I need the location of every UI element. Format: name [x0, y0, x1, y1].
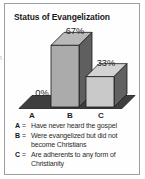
- svg-text:0%: 0%: [35, 88, 48, 98]
- svg-text:B: B: [67, 111, 73, 120]
- svg-text:67%: 67%: [66, 26, 85, 36]
- legend-separator: =: [22, 121, 31, 130]
- legend-entry-a: A = Have never heard the gospel: [15, 121, 139, 130]
- legend-definition-c: Are adherents to any form of Christianit…: [31, 150, 132, 169]
- chart-legend: A = Have never heard the gospel B = Were…: [15, 121, 139, 169]
- legend-entry-b: B = Were evangelized but did not become …: [15, 131, 139, 150]
- legend-separator: =: [22, 131, 31, 150]
- legend-key-b: B: [15, 131, 22, 150]
- legend-definition-b: Were evangelized but did not become Chri…: [31, 131, 132, 150]
- legend-separator: =: [22, 150, 31, 169]
- svg-text:C: C: [98, 111, 104, 120]
- bar-chart-3d: 0%A67%B33%C: [1, 1, 145, 126]
- figure-frame: Status of Evangelization 0%A67%B33%C A =…: [4, 3, 140, 175]
- svg-text:A: A: [29, 111, 35, 120]
- page-edge-text-fragment: n: [0, 54, 2, 61]
- legend-key-a: A: [15, 121, 22, 130]
- legend-definition-a: Have never heard the gospel: [31, 121, 132, 130]
- legend-entry-c: C = Are adherents to any form of Christi…: [15, 150, 139, 169]
- legend-key-c: C: [15, 150, 22, 169]
- svg-text:33%: 33%: [97, 58, 116, 68]
